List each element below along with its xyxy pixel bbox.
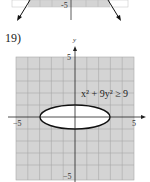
x-min-tick-label: −5 bbox=[13, 119, 22, 128]
prev-y-tick-label: -5 bbox=[61, 1, 68, 10]
prev-left-line bbox=[19, 0, 30, 18]
prev-shaded-region bbox=[28, 0, 110, 7]
x-max-tick-label: 5 bbox=[132, 119, 136, 128]
y-min-tick-label: −5 bbox=[63, 172, 72, 181]
arrow-down-left-icon bbox=[17, 15, 22, 21]
problem-number: 19) bbox=[5, 31, 21, 46]
y-axis-arrow-icon bbox=[73, 46, 77, 51]
graph-19 bbox=[8, 46, 146, 182]
y-max-tick-label: 5 bbox=[67, 53, 71, 62]
inequality-label: x² + 9y² ≥ 9 bbox=[81, 88, 128, 99]
arrow-down-right-icon bbox=[116, 15, 121, 21]
y-axis-label: y bbox=[73, 36, 76, 44]
x-axis-arrow-icon bbox=[141, 115, 146, 119]
prev-right-line bbox=[108, 0, 119, 18]
previous-graph-fragment bbox=[12, 0, 128, 21]
